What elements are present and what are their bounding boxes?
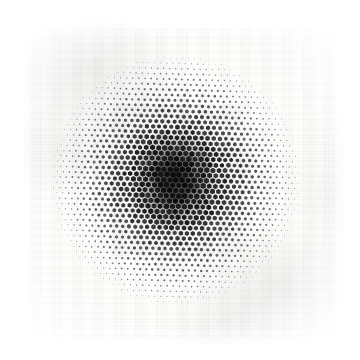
chart-title: Radial halftone dot gradient bbox=[0, 0, 1, 1]
fabric-swatch bbox=[30, 28, 338, 338]
image-title: Halftone Dot Gradient Swatch bbox=[0, 0, 1, 1]
halftone-swatch-image: A square of white woven fabric printed w… bbox=[0, 0, 360, 360]
image-alt-text: A square of white woven fabric printed w… bbox=[0, 0, 1, 1]
